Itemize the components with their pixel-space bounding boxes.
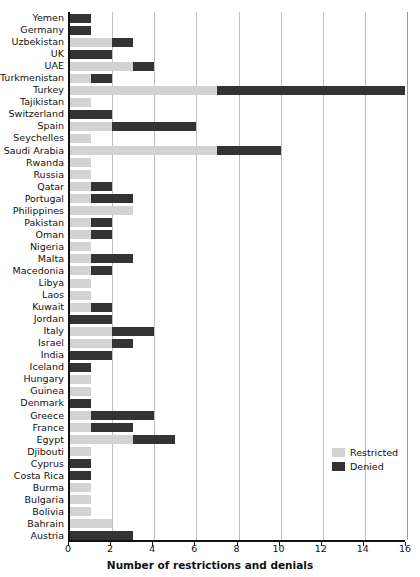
x-axis-tick-mark [279,542,280,546]
y-axis-label: Austria [0,531,64,541]
bar-row [70,108,405,120]
x-axis-tick-mark [68,542,69,546]
bar-row [70,482,405,494]
bar-row [70,518,405,530]
bar-row [70,181,405,193]
y-axis-label: Turkey [0,85,64,95]
x-axis-tick-mark [110,542,111,546]
bar-row [70,24,405,36]
y-axis-label: Russia [0,170,64,180]
y-axis-label: Iceland [0,362,64,372]
bar-row [70,132,405,144]
bar-segment-denied [133,435,175,444]
y-axis-label: Macedonia [0,266,64,276]
bar-segment-restricted [70,495,91,504]
bar-segment-restricted [70,483,91,492]
x-axis-tick-mark [405,542,406,546]
bar-row [70,506,405,518]
y-axis-label: Israel [0,338,64,348]
bar-segment-restricted [70,242,91,251]
y-axis-label: Denmark [0,398,64,408]
y-axis-label: Turkmenistan [0,73,64,83]
bar-segment-restricted [70,375,91,384]
bar-segment-restricted [70,182,91,191]
x-axis-tick-labels: 0246810121416 [0,543,420,559]
bar-segment-restricted [70,194,91,203]
bar-row [70,157,405,169]
bar-segment-restricted [70,230,91,239]
y-axis-label: Egypt [0,435,64,445]
bar-segment-denied [70,459,91,468]
bar-row [70,373,405,385]
bar-segment-denied [91,74,112,83]
bar-segment-restricted [70,206,133,215]
bar-segment-denied [70,14,91,23]
y-axis-label: Libya [0,278,64,288]
bar-segment-denied [217,86,405,95]
bar-segment-denied [70,531,133,540]
y-axis-label: Portugal [0,194,64,204]
bar-segment-restricted [70,279,91,288]
bar-segment-restricted [70,158,91,167]
bar-segment-restricted [70,134,91,143]
y-axis-label: Germany [0,25,64,35]
y-axis-label: Pakistan [0,218,64,228]
bar-row [70,145,405,157]
bar-row [70,36,405,48]
bar-row [70,193,405,205]
y-axis-label: Jordan [0,314,64,324]
bar-segment-denied [91,182,112,191]
bar-segment-restricted [70,74,91,83]
x-axis-title: Number of restrictions and denials [0,559,420,571]
bar-row [70,84,405,96]
bar-segment-restricted [70,507,91,516]
bar-row [70,434,405,446]
bar-row [70,337,405,349]
y-axis-label: Nigeria [0,242,64,252]
y-axis-label: Switzerland [0,109,64,119]
bar-segment-denied [112,327,154,336]
bar-segment-denied [70,315,112,324]
bar-segment-restricted [70,170,91,179]
bar-row [70,397,405,409]
bar-row [70,530,405,542]
y-axis-label: France [0,423,64,433]
legend-swatch-denied [332,462,345,471]
bar-row [70,60,405,72]
y-axis-label: Bulgaria [0,495,64,505]
bar-row [70,289,405,301]
bar-segment-denied [112,38,133,47]
y-axis-label: Yemen [0,13,64,23]
y-axis-label: Saudi Arabia [0,146,64,156]
bar-segment-denied [70,399,91,408]
bar-segment-restricted [70,423,91,432]
bar-segment-denied [70,363,91,372]
bar-segment-restricted [70,291,91,300]
legend-item-denied: Denied [332,461,398,472]
x-axis-tick-mark [194,542,195,546]
y-axis-label: India [0,350,64,360]
chart-root: YemenGermanyUzbekistanUKUAETurkmenistanT… [0,0,420,577]
bar-row [70,265,405,277]
bar-segment-denied [70,110,112,119]
bar-segment-denied [70,26,91,35]
bar-segment-restricted [70,447,91,456]
legend-item-restricted: Restricted [332,447,398,458]
y-axis-label: Oman [0,230,64,240]
y-axis-label: UK [0,49,64,59]
bar-segment-restricted [70,411,91,420]
bar-row [70,494,405,506]
bar-row [70,385,405,397]
bar-segment-denied [112,122,196,131]
bar-segment-denied [91,218,112,227]
y-axis-label: Hungary [0,374,64,384]
bar-segment-restricted [70,122,112,131]
y-axis-label: Laos [0,290,64,300]
bar-segment-denied [112,339,133,348]
bar-segment-denied [91,194,133,203]
bar-segment-denied [70,50,112,59]
x-axis-tick-mark [237,542,238,546]
bar-row [70,205,405,217]
y-axis-label: UAE [0,61,64,71]
bar-row [70,12,405,24]
